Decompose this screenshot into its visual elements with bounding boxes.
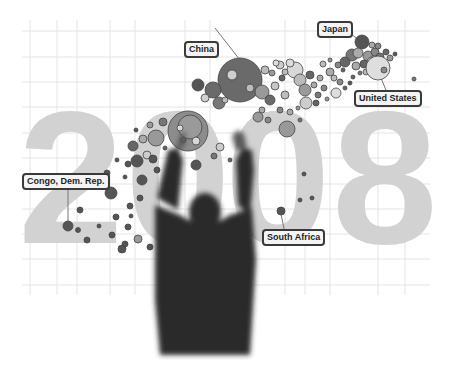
label-china: China: [184, 41, 219, 58]
chart-illustration: 2 0 0 8: [0, 0, 451, 372]
label-south-africa: South Africa: [262, 229, 325, 246]
label-japan: Japan: [317, 21, 353, 38]
label-united-states: United States: [354, 90, 422, 107]
label-congo-dem-rep: Congo, Dem. Rep.: [22, 173, 110, 190]
